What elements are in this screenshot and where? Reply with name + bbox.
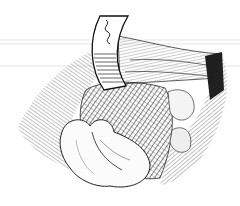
pale-structure: [168, 90, 194, 120]
surgical-illustration: [0, 0, 240, 206]
